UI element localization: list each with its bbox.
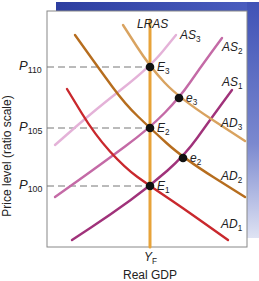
y-axis-label: Price level (ratio scale): [0, 95, 14, 216]
ytick-p105: P105: [19, 119, 42, 136]
point-E3: [146, 63, 155, 72]
point-E2: [146, 124, 155, 133]
label-lras: LRAS: [137, 17, 168, 31]
ytick-p110: P110: [19, 58, 42, 75]
x-axis-label: Real GDP: [123, 268, 177, 281]
xtick-yf: YF: [144, 250, 157, 266]
point-e3: [175, 94, 184, 103]
aggregate-supply-demand-chart: P110P105P100YFReal GDPPrice level (ratio…: [0, 0, 259, 281]
point-e2: [179, 154, 188, 163]
point-E1: [146, 182, 155, 191]
ytick-p100: P100: [19, 177, 42, 194]
side-accent-bar: [247, 2, 259, 238]
